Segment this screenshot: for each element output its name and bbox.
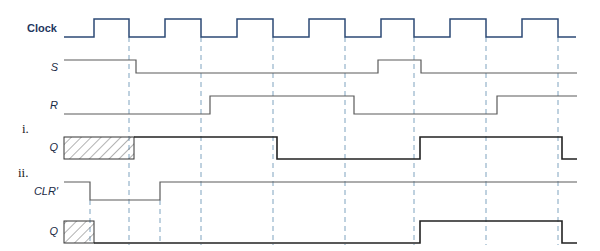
q-ii-label: Q: [8, 225, 58, 237]
q-i-waveform: [134, 137, 577, 159]
r-label: R: [8, 99, 58, 111]
clock-label: Clock: [7, 22, 57, 34]
timing-diagram: [0, 0, 600, 251]
clock-edge-guides: [129, 37, 558, 245]
s-label: S: [8, 61, 58, 73]
q-ii-unknown-hatch: [64, 221, 94, 243]
clr-edge-guides: [90, 200, 160, 245]
s-waveform: [64, 60, 577, 73]
clock-waveform: [64, 19, 576, 37]
section-i-label: i.: [22, 121, 29, 137]
section-ii-label: ii.: [18, 165, 28, 181]
clr-waveform: [64, 182, 577, 200]
q-i-label: Q: [8, 141, 58, 153]
r-waveform: [64, 96, 577, 114]
q-ii-waveform: [94, 221, 577, 243]
clr-label: CLR′: [8, 185, 58, 197]
q-i-unknown-hatch: [64, 137, 134, 159]
